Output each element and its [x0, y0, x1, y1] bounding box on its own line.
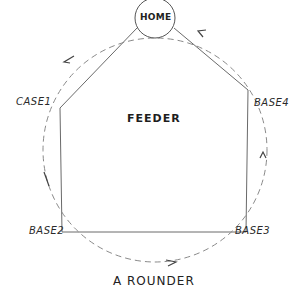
arrow-icon-right	[260, 152, 266, 158]
diagram-title: A ROUNDER	[113, 274, 195, 288]
node-base4-label: BASE4	[254, 97, 289, 108]
node-base3-label: BASE3	[235, 225, 270, 236]
edge-base3-base4	[246, 90, 248, 232]
node-case1-label: CASE1	[16, 96, 51, 107]
arrow-icon-upper-left	[64, 56, 74, 63]
edge-case1-base2	[60, 108, 62, 232]
edge-home-case1	[60, 28, 137, 108]
node-base2-label: BASE2	[29, 225, 64, 236]
rounder-diagram	[0, 0, 306, 303]
center-label: FEEDER	[127, 112, 181, 125]
route-dashed-circle	[43, 38, 267, 262]
arrow-icon-bottom	[166, 260, 176, 266]
edge-base4-home	[174, 28, 248, 90]
arrow-icon-upper-right	[198, 30, 206, 37]
node-home-label: HOME	[140, 12, 172, 22]
arrow-icon-left	[44, 172, 49, 186]
